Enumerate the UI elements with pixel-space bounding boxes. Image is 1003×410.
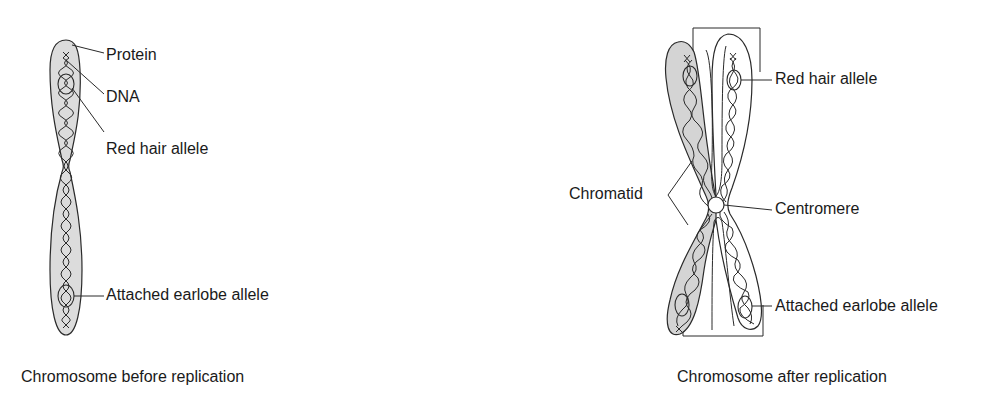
- label-chromatid: Chromatid: [569, 185, 643, 203]
- caption-after-replication: Chromosome after replication: [677, 368, 887, 386]
- chromatid-leader: [668, 161, 692, 225]
- label-protein: Protein: [106, 46, 157, 64]
- centromere: [708, 197, 724, 213]
- label-centromere: Centromere: [775, 200, 859, 218]
- label-red-hair-allele-right: Red hair allele: [775, 70, 877, 88]
- centromere-leader: [724, 205, 772, 210]
- label-dna: DNA: [106, 88, 140, 106]
- label-attached-earlobe-allele-right: Attached earlobe allele: [775, 297, 938, 315]
- label-red-hair-allele: Red hair allele: [106, 140, 208, 158]
- chromosome-after-replication: [666, 28, 773, 336]
- label-attached-earlobe-allele: Attached earlobe allele: [106, 286, 269, 304]
- caption-before-replication: Chromosome before replication: [21, 368, 244, 386]
- chromosome-before-replication: [50, 40, 104, 335]
